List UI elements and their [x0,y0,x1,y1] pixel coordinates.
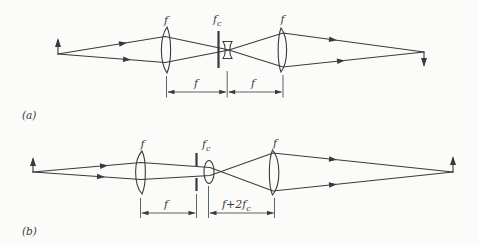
lens-right-label: f [279,13,286,26]
center-lens-label: fc [212,13,222,28]
panel-b: f fc f f f+2fc (b) [22,137,456,237]
lens-left-label: f [163,14,170,27]
ray-upper [58,37,424,68]
optical-relay-diagram: f fc f f f (a) [0,0,479,245]
dim-arrowhead-icon [210,211,217,215]
ray-arrowhead-icon [329,156,338,162]
dim-arrowhead-icon [275,90,282,94]
dim-arrowhead-icon [189,211,196,215]
dimension-label-left: f [163,198,170,211]
ray-arrowhead-icon [123,56,131,62]
field-lens-biconvex [204,161,214,184]
ray-arrowhead-icon [337,58,346,64]
dimension-label-right: f [250,77,257,90]
panel-label: (b) [22,225,37,237]
object-arrowhead-icon [30,157,36,166]
center-lens-label: fc [201,138,211,153]
ray-arrowhead-icon [100,163,108,169]
lens-left-label: f [139,138,146,151]
center-label-sub: c [217,19,222,28]
panel-label: (a) [22,109,36,121]
lens-right-label: f [272,137,279,150]
dim-arrowhead-icon [168,90,175,94]
relay-lens [269,150,279,195]
dimension-label-right: f+2fc [221,198,251,213]
dim-arrowhead-icon [142,211,149,215]
dim-arrowhead-icon [267,211,274,215]
objective-lens [161,27,170,73]
dimension-label-left: f [193,77,200,90]
dim-arrowhead-icon [228,90,235,94]
object-arrowhead-icon [55,38,61,47]
image-arrowhead-icon [450,156,456,165]
ray-arrowhead-icon [329,181,338,187]
objective-lens [136,151,146,194]
dim-right-main: f+2f [221,198,248,211]
image-arrowhead-icon [421,58,427,67]
panel-a: f fc f f f (a) [22,13,427,121]
relay-lens [278,28,286,72]
dim-arrowhead-icon [219,90,226,94]
dim-right-sub: c [246,204,251,213]
figure-page: f fc f f f (a) [0,0,479,245]
ray-arrowhead-icon [97,174,105,180]
center-label-sub: c [206,144,211,153]
